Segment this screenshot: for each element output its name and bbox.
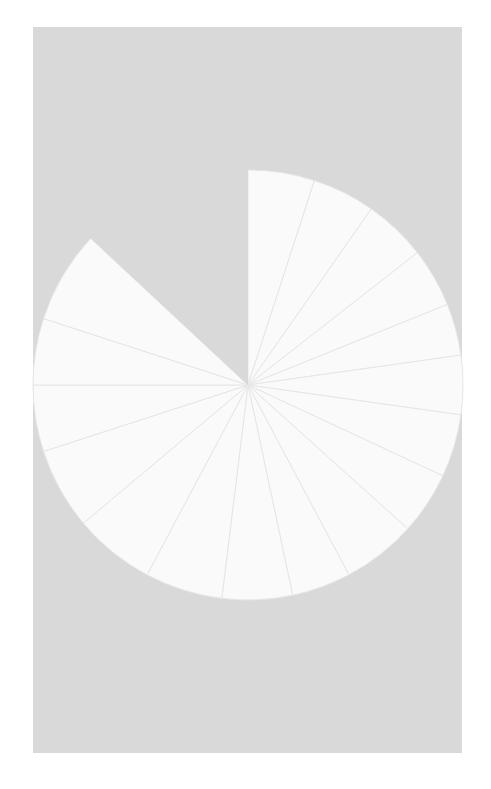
figure-canvas: [0, 0, 491, 789]
pie-chart: [0, 0, 491, 789]
pie-slice-group: [33, 170, 463, 600]
